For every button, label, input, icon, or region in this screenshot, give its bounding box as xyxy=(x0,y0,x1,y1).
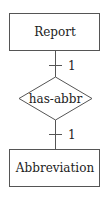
cardinality-label-bottom: 1 xyxy=(68,128,76,142)
cardinality-label-top: 1 xyxy=(68,59,76,73)
relationship-has-abbr-label: has-abbr xyxy=(29,92,83,106)
connector-relationship-abbreviation: 1 xyxy=(49,120,76,150)
entity-report: Report xyxy=(10,14,100,51)
entity-abbreviation-label: Abbreviation xyxy=(15,161,95,175)
connector-report-relationship: 1 xyxy=(49,51,76,78)
er-diagram: Report 1 has-abbr 1 Abbreviation xyxy=(0,0,107,201)
relationship-has-abbr: has-abbr xyxy=(19,77,92,120)
entity-abbreviation: Abbreviation xyxy=(10,150,100,187)
entity-report-label: Report xyxy=(34,25,76,39)
